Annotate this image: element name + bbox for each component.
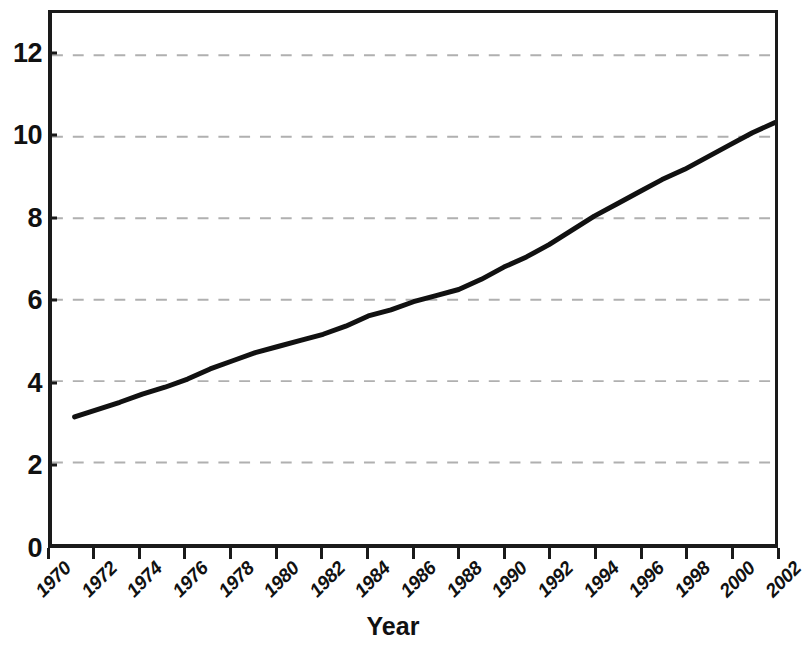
x-tick-label: 1980 bbox=[260, 558, 302, 600]
y-tick-mark bbox=[48, 51, 57, 54]
y-tick-mark bbox=[48, 464, 57, 467]
y-tick-label: 8 bbox=[27, 204, 42, 231]
y-tick-label: 10 bbox=[13, 122, 42, 149]
y-tick-mark bbox=[48, 216, 57, 219]
y-axis-tick-labels: 024681012 bbox=[0, 10, 42, 548]
x-tick-label: 1982 bbox=[306, 558, 348, 600]
x-tick-label: 1990 bbox=[488, 558, 530, 600]
x-tick-label: 1998 bbox=[671, 558, 713, 600]
x-tick-label: 1986 bbox=[397, 558, 439, 600]
y-tick-mark bbox=[48, 299, 57, 302]
x-tick-label: 1970 bbox=[32, 558, 74, 600]
x-tick-label: 1978 bbox=[214, 558, 256, 600]
y-tick-label: 4 bbox=[27, 369, 42, 396]
data-series-line bbox=[52, 13, 775, 544]
x-tick-label: 1974 bbox=[123, 558, 165, 600]
y-tick-label: 6 bbox=[27, 287, 42, 314]
series-line bbox=[75, 123, 775, 417]
x-tick-label: 1996 bbox=[625, 558, 667, 600]
x-tick-label: 1984 bbox=[351, 558, 393, 600]
x-tick-label: 1972 bbox=[78, 558, 120, 600]
plot-area bbox=[48, 10, 778, 548]
x-tick-label: 1994 bbox=[579, 558, 621, 600]
y-tick-mark bbox=[48, 381, 57, 384]
y-tick-label: 12 bbox=[13, 39, 42, 66]
y-tick-label: 2 bbox=[27, 452, 42, 479]
x-axis-tick-labels: 1970197219741976197819801982198419861988… bbox=[0, 558, 786, 618]
y-tick-mark bbox=[48, 134, 57, 137]
x-tick-label: 2000 bbox=[716, 558, 758, 600]
x-axis-title: Year bbox=[0, 612, 786, 641]
x-tick-label: 2002 bbox=[762, 558, 804, 600]
x-tick-label: 1988 bbox=[443, 558, 485, 600]
x-tick-label: 1976 bbox=[169, 558, 211, 600]
x-tick-label: 1992 bbox=[534, 558, 576, 600]
